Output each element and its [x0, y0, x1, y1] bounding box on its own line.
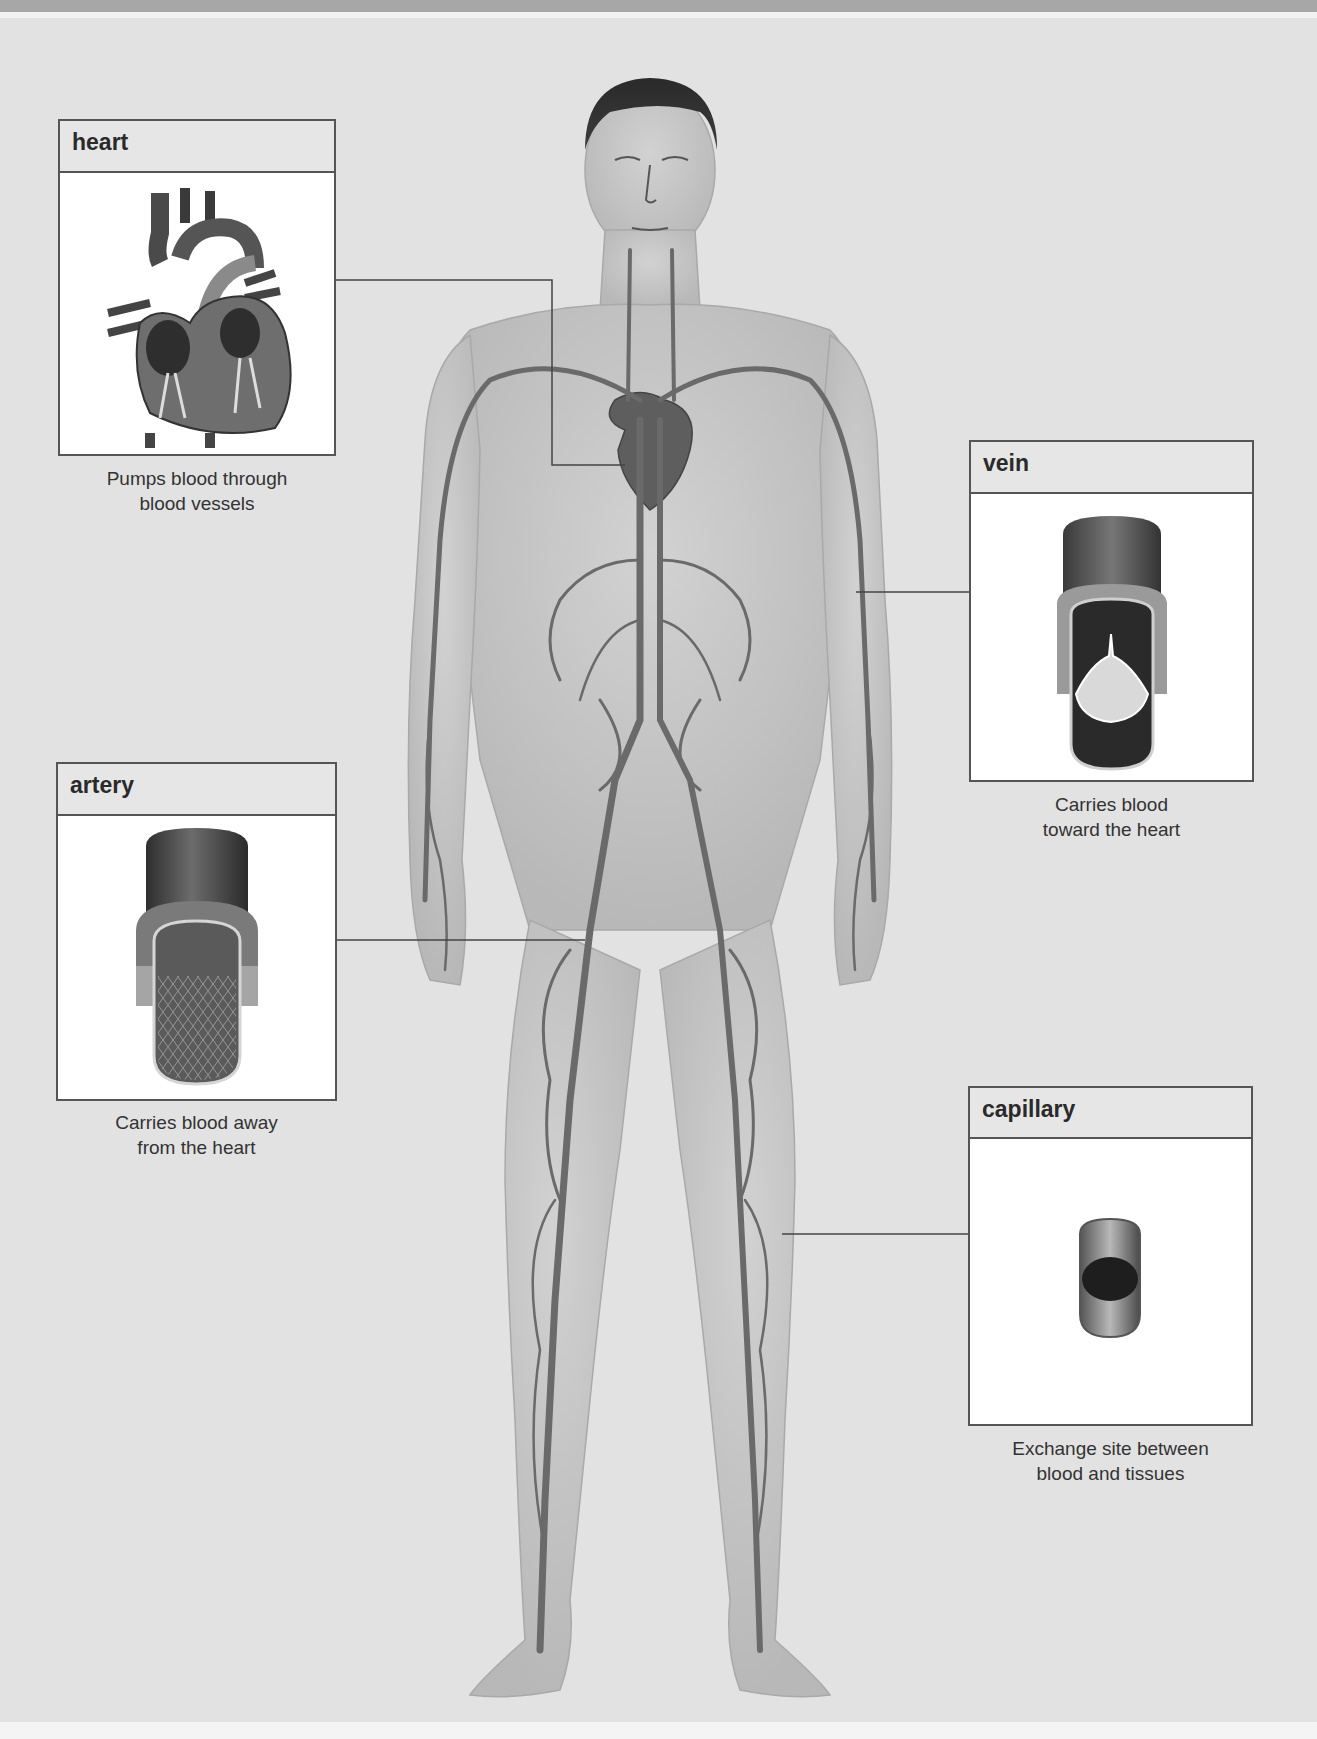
capillary-caption: Exchange site between blood and tissues — [968, 1436, 1253, 1486]
artery-callout: artery — [56, 762, 337, 1101]
artery-cutaway-icon — [58, 816, 335, 1099]
heart-cross-section-icon — [60, 173, 334, 454]
heart-caption-line1: Pumps blood through — [58, 466, 336, 491]
heart-callout-header: heart — [60, 121, 334, 173]
artery-callout-title: artery — [70, 772, 134, 799]
vein-caption: Carries blood toward the heart — [969, 792, 1254, 842]
heart-callout-title: heart — [72, 129, 128, 156]
artery-callout-header: artery — [58, 764, 335, 816]
heart-caption-line2: blood vessels — [58, 491, 336, 516]
capillary-icon — [970, 1139, 1251, 1424]
artery-caption-line2: from the heart — [56, 1135, 337, 1160]
vein-valve-icon — [971, 494, 1252, 780]
vein-callout-header: vein — [971, 442, 1252, 494]
capillary-callout-title: capillary — [982, 1096, 1075, 1123]
capillary-callout: capillary — [968, 1086, 1253, 1426]
capillary-caption-line2: blood and tissues — [968, 1461, 1253, 1486]
heart-callout: heart — [58, 119, 336, 456]
vein-callout: vein — [969, 440, 1254, 782]
vein-callout-title: vein — [983, 450, 1029, 477]
body-silhouette — [408, 85, 891, 1697]
artery-caption-line1: Carries blood away — [56, 1110, 337, 1135]
vein-caption-line2: toward the heart — [969, 817, 1254, 842]
capillary-callout-header: capillary — [970, 1088, 1251, 1139]
heart-caption: Pumps blood through blood vessels — [58, 466, 336, 516]
capillary-caption-line1: Exchange site between — [968, 1436, 1253, 1461]
vein-caption-line1: Carries blood — [969, 792, 1254, 817]
artery-caption: Carries blood away from the heart — [56, 1110, 337, 1160]
